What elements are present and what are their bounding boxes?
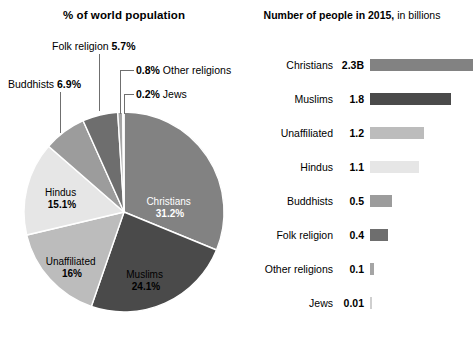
- bar-value-jews: 0.01: [340, 297, 370, 309]
- callout-buddhists: Buddhists 6.9%: [8, 79, 81, 90]
- pie-label-hindus-name: Hindus: [45, 187, 76, 198]
- bar-value-buddhists: 0.5: [340, 195, 370, 207]
- leader-line-other-religions-horizontal: [120, 70, 134, 71]
- bar-label-unaffiliated: Unaffiliated: [244, 127, 340, 139]
- bar-track: [370, 158, 460, 176]
- bar-track: [370, 56, 460, 74]
- bar-fill-jews[interactable]: [370, 297, 372, 309]
- pie-slice-group: [24, 112, 224, 312]
- callout-other-religions-name: Other religions: [160, 64, 231, 76]
- bar-track: [370, 260, 460, 278]
- bar-fill-buddhists[interactable]: [370, 195, 392, 207]
- bar-row: Christians2.3B: [244, 56, 460, 74]
- callout-buddhists-value: 6.9%: [57, 78, 81, 90]
- leader-line-folk-religion: [99, 54, 100, 111]
- pie-label-christians-value: 31.2%: [156, 208, 184, 219]
- pie-label-muslims: Muslims 24.1%: [126, 269, 165, 292]
- bar-chart-title-rest: in billions: [394, 9, 440, 21]
- leader-line-other-religions-vertical: [120, 70, 121, 114]
- leader-line-jews-vertical: [124, 94, 125, 114]
- bar-track: [370, 192, 460, 210]
- bar-label-buddhists: Buddhists: [244, 195, 340, 207]
- callout-other-religions-value: 0.8%: [136, 64, 160, 76]
- callout-folk-religion: Folk religion 5.7%: [52, 41, 135, 52]
- bar-value-muslims: 1.8: [340, 93, 370, 105]
- bar-row: Hindus1.1: [244, 158, 460, 176]
- bar-label-jews: Jews: [244, 297, 340, 309]
- bar-track: [370, 90, 460, 108]
- callout-jews-name: Jews: [160, 88, 187, 100]
- callout-folk-religion-value: 5.7%: [112, 40, 136, 52]
- bar-label-folk-religion: Folk religion: [244, 229, 340, 241]
- bar-value-folk-religion: 0.4: [340, 229, 370, 241]
- bar-chart-title: Number of people in 2015, in billions: [244, 9, 460, 21]
- bar-fill-muslims[interactable]: [370, 93, 451, 105]
- bar-label-muslims: Muslims: [244, 93, 340, 105]
- bar-row: Buddhists0.5: [244, 192, 460, 210]
- bar-row: Folk religion0.4: [244, 226, 460, 244]
- bar-row: Other religions0.1: [244, 260, 460, 278]
- bar-value-christians: 2.3B: [340, 59, 370, 71]
- bar-label-hindus: Hindus: [244, 161, 340, 173]
- bar-fill-christians[interactable]: [370, 59, 473, 71]
- bar-label-christians: Christians: [244, 59, 340, 71]
- bar-row: Unaffiliated1.2: [244, 124, 460, 142]
- bar-fill-folk-religion[interactable]: [370, 229, 388, 241]
- bar-fill-unaffiliated[interactable]: [370, 127, 424, 139]
- callout-folk-religion-name: Folk religion: [52, 40, 112, 52]
- pie-label-muslims-value: 24.1%: [132, 281, 160, 292]
- pie-label-christians-name: Christians: [146, 196, 190, 207]
- bar-chart-title-strong: Number of people in 2015,: [264, 9, 395, 21]
- bar-chart: Christians2.3BMuslims1.8Unaffiliated1.2H…: [244, 56, 460, 336]
- pie-label-muslims-name: Muslims: [126, 269, 163, 280]
- callout-buddhists-name: Buddhists: [8, 78, 57, 90]
- bar-value-hindus: 1.1: [340, 161, 370, 173]
- pie-label-hindus: Hindus 15.1%: [45, 187, 79, 210]
- bar-track: [370, 226, 460, 244]
- bar-track: [370, 124, 460, 142]
- pie-label-unaffiliated-name: Unaffiliated: [46, 256, 96, 267]
- leader-line-buddhists: [60, 92, 61, 133]
- pie-label-hindus-value: 15.1%: [48, 199, 76, 210]
- bar-fill-hindus[interactable]: [370, 161, 419, 173]
- callout-other-religions: 0.8% Other religions: [136, 65, 231, 76]
- bar-value-other-religions: 0.1: [340, 263, 370, 275]
- callout-jews: 0.2% Jews: [136, 89, 187, 100]
- bar-track: [370, 294, 460, 312]
- bar-fill-other-religions[interactable]: [370, 263, 374, 275]
- bar-value-unaffiliated: 1.2: [340, 127, 370, 139]
- leader-line-jews-horizontal: [124, 94, 134, 95]
- bar-row: Jews0.01: [244, 294, 460, 312]
- bar-row: Muslims1.8: [244, 90, 460, 108]
- bar-label-other-religions: Other religions: [244, 263, 340, 275]
- pie-label-unaffiliated-value: 16%: [62, 268, 82, 279]
- callout-jews-value: 0.2%: [136, 88, 160, 100]
